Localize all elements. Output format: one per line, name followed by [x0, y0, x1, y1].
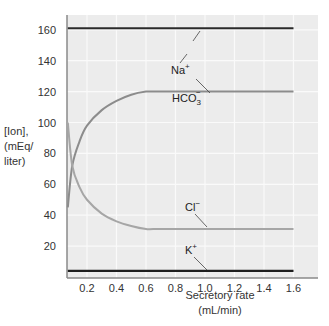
x-tick-label: 0.2: [79, 282, 94, 294]
y-axis-ticks: 20406080100120140160: [38, 24, 56, 252]
plot-area: [67, 15, 318, 278]
y-axis-label: [Ion], (mEq/ liter): [4, 124, 33, 169]
y-tick-label: 20: [44, 240, 56, 252]
y-tick-label: 40: [44, 209, 56, 221]
y-axis-label-line: [Ion],: [4, 124, 33, 139]
x-axis-label: Secretory rate (mL/min): [140, 288, 300, 318]
x-tick-label: 0.4: [109, 282, 124, 294]
y-tick-label: 100: [38, 117, 56, 129]
y-tick-label: 120: [38, 86, 56, 98]
y-tick-label: 160: [38, 24, 56, 36]
y-axis-label-line: (mEq/: [4, 139, 33, 154]
y-tick-label: 80: [44, 147, 56, 159]
y-tick-label: 60: [44, 178, 56, 190]
y-axis-label-line: liter): [4, 154, 33, 169]
y-tick-label: 140: [38, 55, 56, 67]
x-axis-label-line: Secretory rate: [140, 288, 300, 303]
x-axis-label-line: (mL/min): [140, 303, 300, 318]
ion-concentration-chart: 20406080100120140160 0.20.40.60.81.01.21…: [0, 0, 329, 326]
